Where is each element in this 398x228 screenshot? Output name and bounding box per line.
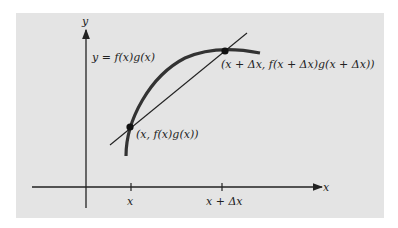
point-2-label: (x + Δx, f(x + Δx)g(x + Δx)) [221,59,375,70]
point-1 [126,123,133,130]
point-2 [221,47,228,54]
y-axis-label: y [82,16,88,27]
tick-label-x: x [127,196,133,207]
curve-label: y = f(x)g(x) [92,52,155,63]
tick-label-x-plus-dx: x + Δx [206,196,243,207]
x-axis-label: x [323,182,329,193]
diagram-canvas [0,0,398,228]
point-1-label: (x, f(x)g(x)) [136,129,198,140]
